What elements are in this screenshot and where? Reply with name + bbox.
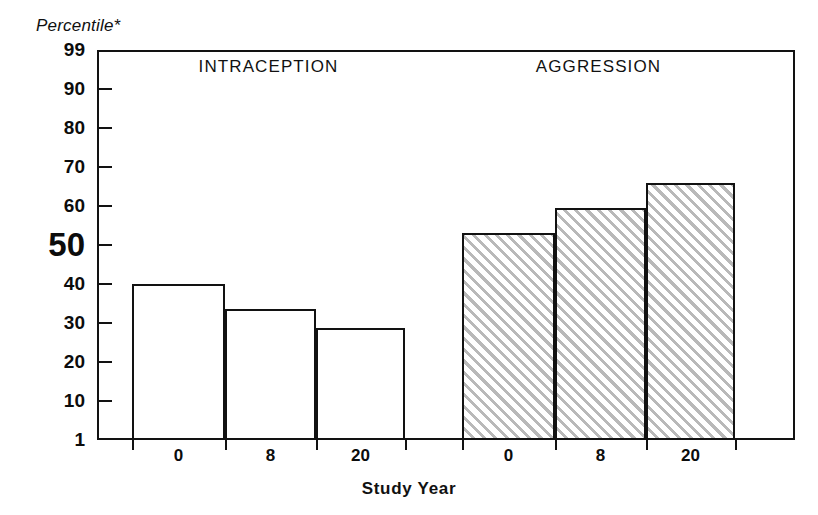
y-tick-label: 30 bbox=[13, 313, 85, 332]
bar bbox=[555, 208, 646, 440]
y-tick-mark bbox=[97, 283, 112, 285]
y-tick-label: 70 bbox=[13, 157, 85, 176]
y-tick-mark bbox=[97, 205, 112, 207]
y-tick-mark bbox=[97, 322, 112, 324]
y-tick-label: 20 bbox=[13, 352, 85, 371]
x-tick-mark bbox=[405, 440, 407, 450]
group-title: AGGRESSION bbox=[462, 57, 735, 77]
bar-chart-figure: Percentile* 999080706050403020101 082008… bbox=[0, 0, 818, 515]
y-tick-label: 1 bbox=[13, 430, 85, 449]
y-tick-mark bbox=[97, 361, 112, 363]
y-tick-label: 99 bbox=[13, 40, 85, 59]
group-title: INTRACEPTION bbox=[132, 57, 405, 77]
x-tick-mark bbox=[735, 440, 737, 450]
y-tick-label: 10 bbox=[13, 391, 85, 410]
y-tick-mark bbox=[97, 244, 112, 246]
y-tick-mark bbox=[97, 88, 112, 90]
bar bbox=[462, 233, 555, 440]
bar bbox=[646, 183, 735, 440]
bar bbox=[225, 309, 316, 440]
y-axis-title: Percentile* bbox=[36, 16, 120, 36]
y-tick-mark bbox=[97, 166, 112, 168]
x-tick-label: 20 bbox=[286, 447, 435, 464]
x-tick-label: 20 bbox=[616, 447, 765, 464]
y-tick-label: 50 bbox=[0, 228, 85, 261]
y-tick-mark bbox=[97, 127, 112, 129]
y-tick-mark bbox=[97, 400, 112, 402]
y-tick-label: 90 bbox=[13, 79, 85, 98]
bar bbox=[132, 284, 225, 440]
x-axis-title: Study Year bbox=[0, 479, 818, 499]
y-tick-label: 80 bbox=[13, 118, 85, 137]
y-tick-label: 60 bbox=[13, 196, 85, 215]
bar bbox=[316, 328, 405, 440]
y-tick-label: 40 bbox=[13, 274, 85, 293]
